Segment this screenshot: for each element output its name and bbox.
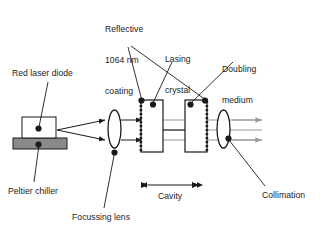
dot-focussing-lens [111,149,117,155]
focused-beams [121,120,142,140]
dot-doubling-coating [202,97,208,103]
label-lasing-crystal-line1: Lasing [165,54,191,64]
lasing-crystal [141,100,163,152]
dot-lasing-crystal [150,101,156,107]
label-doubling-medium-line1: Doubling [222,64,256,74]
label-focussing-lens: Focussing lens [72,212,130,222]
label-reflective-coating: Reflective 1064 nm coating [105,4,143,116]
dot-red-laser-diode [35,125,41,131]
label-doubling-medium: Doubling medium [222,44,256,126]
label-reflective-coating-line3: coating [105,86,143,96]
pump-beams [57,120,105,140]
label-peltier-chiller: Peltier chiller [8,186,58,196]
laser-schematic-figure: Reflective 1064 nm coating Lasing crysta… [0,0,328,242]
label-reflective-coating-line1: Reflective [105,24,143,34]
cavity-span-arrow [141,182,203,188]
label-lasing-crystal-line2: crystal [165,85,191,95]
label-reflective-coating-line2: 1064 nm [105,55,143,65]
diagram-canvas [0,0,328,242]
label-cavity: Cavity [158,191,182,201]
dot-collimation [225,135,231,141]
dot-peltier-chiller [35,141,41,147]
label-collimation: Collimation [262,190,305,200]
label-lasing-crystal: Lasing crystal [165,34,191,116]
label-doubling-medium-line2: medium [222,95,256,105]
label-red-laser-diode: Red laser diode [12,68,73,78]
